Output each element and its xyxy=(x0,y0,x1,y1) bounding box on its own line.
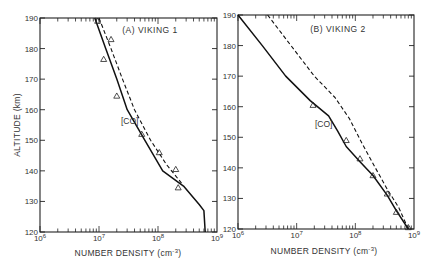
triangle-marker xyxy=(114,93,120,98)
triangle-marker xyxy=(175,185,181,190)
x-tick-label: 107 xyxy=(291,230,304,240)
y-tick-label: 170 xyxy=(25,75,39,84)
x-tick-label: 108 xyxy=(349,230,362,240)
co-label: [CO] xyxy=(315,119,332,129)
x-axis: 106107108109 xyxy=(34,18,224,243)
y-tick-label: 130 xyxy=(25,197,39,206)
panel-viking-1: 120130140150160170180190106107108109(A) … xyxy=(25,14,224,243)
y-tick-label: 130 xyxy=(223,194,237,203)
y-tick-label: 170 xyxy=(223,72,237,81)
y-tick-label: 180 xyxy=(223,42,237,51)
triangle-marker xyxy=(173,166,179,171)
y-tick-label: 190 xyxy=(223,11,237,20)
y-tick-label: 160 xyxy=(223,103,237,112)
x-axis-title-b: NUMBER DENSITY (cm-3) xyxy=(271,246,378,256)
triangle-marker xyxy=(108,36,114,41)
x-tick-label: 107 xyxy=(93,233,106,243)
y-tick-label: 190 xyxy=(25,14,39,23)
x-tick-label: 106 xyxy=(232,230,245,240)
dashed-model-line xyxy=(99,18,182,183)
dashed-model-line xyxy=(268,15,409,229)
panel-title: (B) VIKING 2 xyxy=(310,24,366,34)
y-tick-label: 140 xyxy=(25,167,39,176)
measured-points xyxy=(95,18,182,190)
panel-title: (A) VIKING 1 xyxy=(122,25,178,35)
y-tick-label: 160 xyxy=(25,106,39,115)
y-axis-title: ALTITUDE (km) xyxy=(12,93,22,157)
co-label: [CO] xyxy=(121,116,138,126)
x-tick-label: 109 xyxy=(408,230,421,240)
x-tick-label: 109 xyxy=(211,233,224,243)
triangle-marker xyxy=(101,56,107,61)
y-tick-label: 140 xyxy=(223,164,237,173)
x-tick-label: 106 xyxy=(34,233,47,243)
triangle-marker xyxy=(343,137,349,142)
panel-viking-2: 120130140150160170180190106107108109(B) … xyxy=(223,11,421,240)
y-tick-label: 150 xyxy=(25,136,39,145)
x-tick-label: 108 xyxy=(152,233,165,243)
y-tick-label: 150 xyxy=(223,133,237,142)
x-axis-title-a: NUMBER DENSITY (cm-3) xyxy=(75,248,182,258)
co-density-chart: 120130140150160170180190106107108109(A) … xyxy=(0,0,430,266)
y-tick-label: 180 xyxy=(25,45,39,54)
